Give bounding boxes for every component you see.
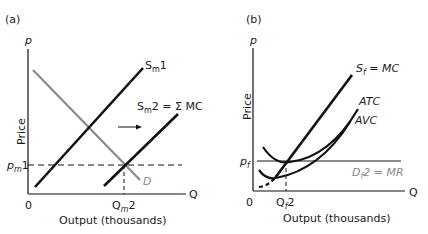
panel-b-avc-label: AVC <box>354 114 378 127</box>
panel-b-pf-label: pf <box>239 155 251 170</box>
panel-a: (a) p Price Q 0 Sm1 Sm2 = Σ MC D pm1 Qm2… <box>5 13 203 227</box>
chart-canvas: (a) p Price Q 0 Sm1 Sm2 = Σ MC D pm1 Qm2… <box>0 0 428 234</box>
panel-a-x-symbol: Q <box>189 188 198 201</box>
panel-b-x-symbol: Q <box>409 186 418 199</box>
panel-b-atc-curve <box>263 109 358 162</box>
panel-b: (b) p Price Q 0 Sf = MC ATC AVC Df2 = MR… <box>239 13 418 225</box>
panel-b-title: (b) <box>246 13 262 26</box>
panel-a-pm1-label: pm1 <box>6 159 29 174</box>
panel-b-atc-label: ATC <box>358 95 380 108</box>
panel-b-sf-label: Sf = MC <box>356 62 400 77</box>
arrow-right-icon <box>136 125 142 130</box>
panel-b-qf2-label: Qf2 <box>276 196 295 211</box>
panel-a-sm1-label: Sm1 <box>145 59 167 74</box>
panel-a-y-symbol: p <box>24 34 32 47</box>
panel-a-y-axis-label: Price <box>15 118 28 145</box>
panel-b-y-axis-label: Price <box>241 93 254 120</box>
panel-b-y-symbol: p <box>249 34 257 47</box>
panel-b-mc-dashed-segment <box>259 178 275 187</box>
panel-b-origin: 0 <box>246 196 253 209</box>
panel-a-title: (a) <box>5 13 20 26</box>
panel-a-supply-curve-2 <box>104 114 178 186</box>
panel-b-df-label: Df2 = MR <box>352 166 404 181</box>
panel-b-x-axis-label: Output (thousands) <box>283 212 390 225</box>
panel-b-avc-curve <box>259 122 350 178</box>
panel-a-d-label: D <box>143 175 151 188</box>
panel-a-x-axis-label: Output (thousands) <box>59 214 166 227</box>
panel-a-demand-curve <box>33 70 140 180</box>
panel-a-qm2-label: Qm2 <box>112 199 135 214</box>
panel-a-sm2-label: Sm2 = Σ MC <box>137 100 203 115</box>
panel-a-origin: 0 <box>25 199 32 212</box>
